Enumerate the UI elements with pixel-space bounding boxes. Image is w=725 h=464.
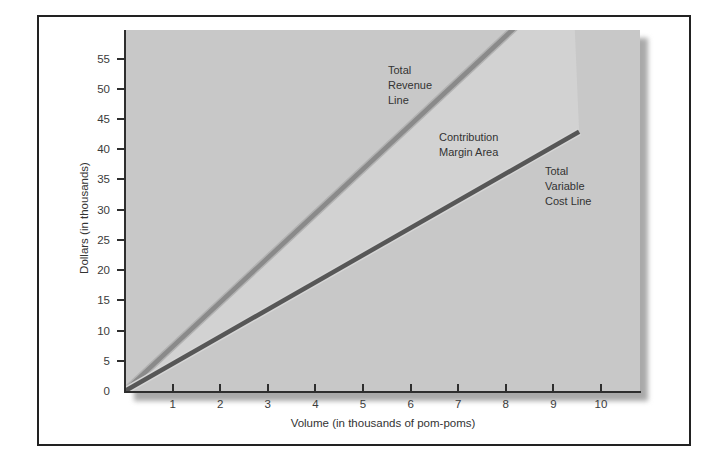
x-tick-mark [410,384,412,391]
x-tick-mark [267,384,269,391]
x-tick-label: 1 [158,397,188,411]
y-tick-label: 50 [76,82,110,96]
y-tick-label: 40 [76,142,110,156]
figure-border: 051015202530354045505512345678910 Total … [37,15,691,446]
x-tick-mark [219,384,221,391]
y-tick-mark [117,88,126,90]
y-axis-title: Dollars (in thousands) [78,162,90,274]
y-tick-label: 10 [76,324,110,338]
contribution-margin-area-label: Contribution Margin Area [439,130,498,160]
y-tick-mark [117,330,126,332]
y-tick-label: 0 [76,384,110,398]
x-tick-mark [314,384,316,391]
total-variable-cost-line-label: Total Variable Cost Line [545,164,591,209]
total-variable-cost-line [126,132,579,391]
x-tick-label: 7 [443,397,473,411]
x-tick-label: 10 [586,397,616,411]
x-tick-label: 3 [253,397,283,411]
x-axis-line [124,391,641,393]
x-tick-mark [552,384,554,391]
y-tick-mark [117,269,126,271]
cvp-chart-figure: 051015202530354045505512345678910 Total … [0,0,725,464]
y-tick-label: 55 [76,52,110,66]
x-tick-mark [505,384,507,391]
y-tick-mark [117,178,126,180]
x-tick-mark [172,384,174,391]
y-tick-mark [117,209,126,211]
y-tick-mark [117,118,126,120]
y-tick-label: 5 [76,354,110,368]
x-tick-mark [362,384,364,391]
x-axis-title: Volume (in thousands of pom-poms) [126,417,640,429]
y-tick-mark [117,148,126,150]
contribution-margin-area [126,30,579,391]
x-tick-label: 9 [538,397,568,411]
y-tick-mark [117,299,126,301]
y-tick-mark [117,239,126,241]
x-tick-label: 4 [300,397,330,411]
plot-area [126,30,640,391]
x-tick-label: 8 [491,397,521,411]
x-tick-label: 5 [348,397,378,411]
y-tick-label: 45 [76,112,110,126]
x-tick-label: 6 [396,397,426,411]
x-tick-label: 2 [205,397,235,411]
y-axis-line [124,30,126,393]
y-tick-mark [117,58,126,60]
total-revenue-line-label: Total Revenue Line [388,63,432,108]
x-tick-mark [457,384,459,391]
x-tick-mark [600,384,602,391]
y-tick-label: 15 [76,293,110,307]
chart-canvas [126,30,640,391]
y-tick-mark [117,360,126,362]
